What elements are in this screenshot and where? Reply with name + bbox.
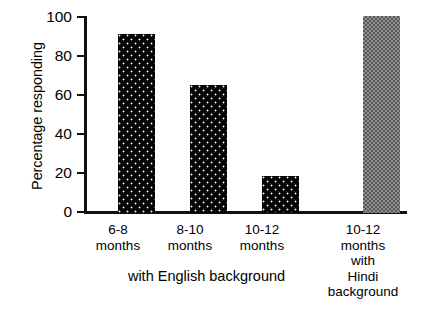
bars-layer xyxy=(84,16,407,213)
category-label-1-line-0: 8-10 xyxy=(150,222,230,238)
category-label-1-line-1: months xyxy=(150,238,230,254)
y-tick-label-0: 0 xyxy=(14,204,72,220)
y-tick-label-20: 20 xyxy=(14,165,72,181)
category-label-3-line-4: background xyxy=(323,284,403,300)
category-label-2: 10-12 months xyxy=(222,222,302,253)
bar-10-12-months[interactable] xyxy=(262,176,299,213)
bar-10-12-months-hindi[interactable] xyxy=(363,16,400,213)
bar-8-10-months[interactable] xyxy=(190,85,227,213)
category-label-3: 10-12 months with Hindi background xyxy=(323,222,403,300)
y-tick-label-100: 100 xyxy=(14,9,72,25)
category-label-0-line-1: months xyxy=(78,238,158,254)
category-label-3-line-1: months xyxy=(323,238,403,254)
category-label-3-line-3: Hindi xyxy=(323,269,403,285)
bar-6-8-months[interactable] xyxy=(118,34,155,213)
category-label-2-line-0: 10-12 xyxy=(222,222,302,238)
group-caption-english-background: with English background xyxy=(84,268,329,284)
y-axis-title: Percentage responding xyxy=(29,16,45,216)
category-label-0-line-0: 6-8 xyxy=(78,222,158,238)
bar-chart: Percentage responding 100 80 60 40 20 0 … xyxy=(0,0,438,329)
y-tick-label-80: 80 xyxy=(14,48,72,64)
y-tick-label-40: 40 xyxy=(14,126,72,142)
category-label-1: 8-10 months xyxy=(150,222,230,253)
category-label-3-line-2: with xyxy=(323,253,403,269)
category-label-0: 6-8 months xyxy=(78,222,158,253)
y-tick-label-60: 60 xyxy=(14,87,72,103)
category-label-2-line-1: months xyxy=(222,238,302,254)
category-label-3-line-0: 10-12 xyxy=(323,222,403,238)
